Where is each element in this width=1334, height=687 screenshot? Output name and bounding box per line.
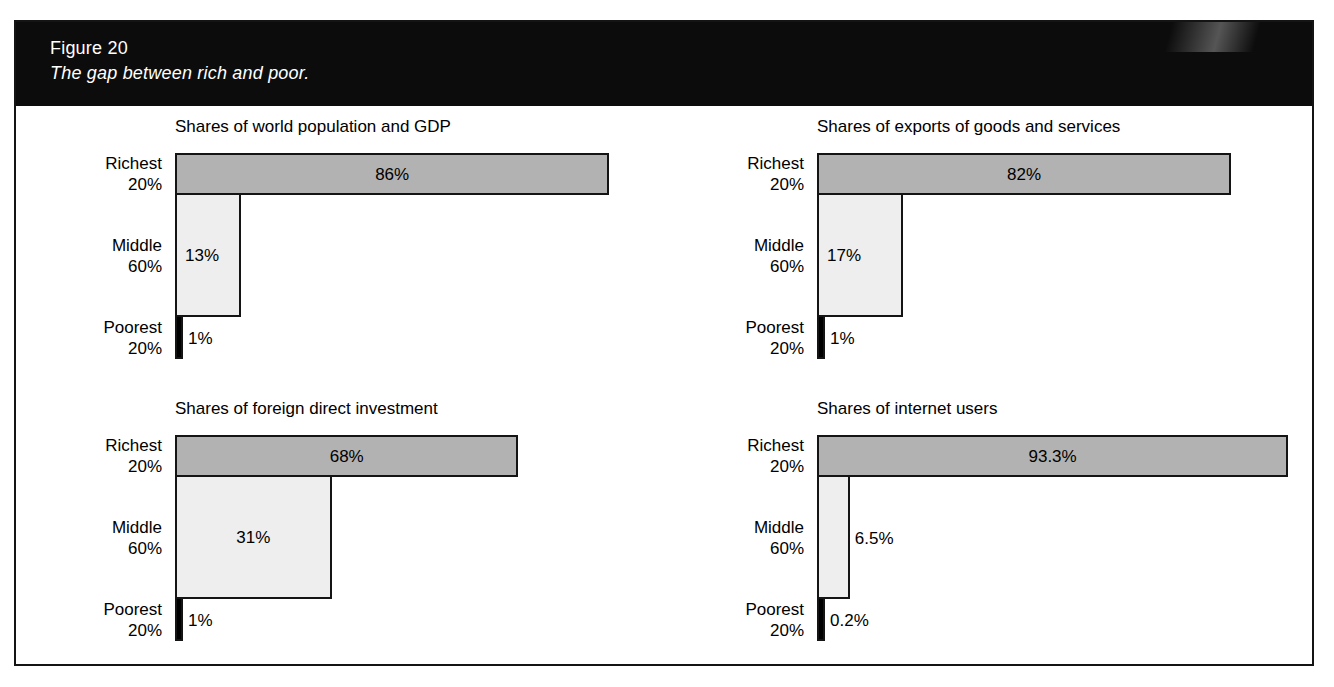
bar-poorest[interactable]	[175, 599, 183, 641]
category-label-line: Poorest	[664, 599, 804, 620]
bar-slot-richest: 86%	[175, 153, 609, 195]
category-label-line: 60%	[664, 256, 804, 277]
bar-middle[interactable]: 17%	[817, 195, 903, 317]
bar-value-label-richest: 68%	[177, 448, 516, 465]
bar-value-label-richest: 86%	[177, 166, 607, 183]
bar-slot-middle: 17%	[817, 195, 903, 317]
bar-slot-richest: 93.3%	[817, 435, 1288, 477]
bar-slot-richest: 82%	[817, 153, 1231, 195]
category-label-middle: Middle60%	[664, 235, 804, 277]
category-label-line: Poorest	[664, 317, 804, 338]
bar-slot-middle: 6.5%	[817, 477, 850, 599]
bar-slot-poorest: 0.2%	[817, 599, 825, 641]
chart-title: Shares of world population and GDP	[175, 116, 451, 138]
bar-slot-poorest: 1%	[817, 317, 825, 359]
chart-title: Shares of foreign direct investment	[175, 398, 438, 420]
category-label-line: 60%	[664, 538, 804, 559]
bar-middle[interactable]	[817, 477, 850, 599]
chart-title: Shares of exports of goods and services	[817, 116, 1120, 138]
chart-panel-internet-users: Shares of internet users Richest20%93.3%…	[664, 398, 1294, 670]
category-label-line: Richest	[664, 153, 804, 174]
category-label-line: 20%	[664, 174, 804, 195]
bar-middle[interactable]: 13%	[175, 195, 241, 317]
bar-value-label-middle: 13%	[185, 247, 219, 264]
category-label-middle: Middle60%	[664, 517, 804, 559]
chart-panel-exports-goods-services: Shares of exports of goods and services …	[664, 116, 1294, 388]
chart-title: Shares of internet users	[817, 398, 997, 420]
category-label-richest: Richest20%	[22, 153, 162, 195]
category-label-line: Richest	[22, 435, 162, 456]
bar-poorest[interactable]	[175, 317, 183, 359]
category-label-line: 60%	[22, 256, 162, 277]
figure-number: Figure 20	[50, 36, 1312, 61]
bar-value-label-poorest: 1%	[188, 330, 213, 347]
bar-slot-middle: 31%	[175, 477, 332, 599]
figure-frame: Figure 20 The gap between rich and poor.…	[14, 20, 1314, 666]
category-label-line: Middle	[664, 235, 804, 256]
bar-value-label-poorest: 1%	[188, 612, 213, 629]
chart-panel-world-population-gdp: Shares of world population and GDP Riche…	[22, 116, 652, 388]
category-label-line: Richest	[22, 153, 162, 174]
figure-subtitle: The gap between rich and poor.	[50, 61, 1312, 86]
bar-value-label-middle: 17%	[827, 247, 861, 264]
charts-area: Shares of world population and GDP Riche…	[16, 106, 1312, 664]
figure-header: Figure 20 The gap between rich and poor.	[16, 22, 1312, 106]
category-label-line: 60%	[22, 538, 162, 559]
bar-middle[interactable]: 31%	[175, 477, 332, 599]
category-label-line: Richest	[664, 435, 804, 456]
bar-poorest[interactable]	[817, 599, 825, 641]
figure-page: Figure 20 The gap between rich and poor.…	[0, 0, 1334, 687]
chart-panel-foreign-direct-investment: Shares of foreign direct investment Rich…	[22, 398, 652, 670]
category-label-line: Poorest	[22, 599, 162, 620]
bar-value-label-poorest: 0.2%	[830, 612, 869, 629]
bar-poorest[interactable]	[817, 317, 825, 359]
category-label-poorest: Poorest20%	[664, 599, 804, 641]
bar-value-label-poorest: 1%	[830, 330, 855, 347]
bar-slot-poorest: 1%	[175, 599, 183, 641]
category-label-middle: Middle60%	[22, 517, 162, 559]
bar-value-label-middle: 31%	[177, 529, 330, 546]
category-label-poorest: Poorest20%	[664, 317, 804, 359]
category-label-line: 20%	[664, 338, 804, 359]
bar-richest[interactable]: 86%	[175, 153, 609, 195]
category-label-poorest: Poorest20%	[22, 317, 162, 359]
bar-richest[interactable]: 93.3%	[817, 435, 1288, 477]
category-label-richest: Richest20%	[22, 435, 162, 477]
bar-value-label-middle: 6.5%	[855, 530, 894, 547]
bar-richest[interactable]: 68%	[175, 435, 518, 477]
category-label-line: Middle	[22, 235, 162, 256]
category-label-line: 20%	[664, 456, 804, 477]
category-label-line: 20%	[22, 174, 162, 195]
category-label-poorest: Poorest20%	[22, 599, 162, 641]
category-label-line: 20%	[22, 456, 162, 477]
category-label-middle: Middle60%	[22, 235, 162, 277]
category-label-line: 20%	[22, 620, 162, 641]
bar-value-label-richest: 82%	[819, 166, 1229, 183]
category-label-line: Middle	[664, 517, 804, 538]
bar-richest[interactable]: 82%	[817, 153, 1231, 195]
category-label-line: 20%	[22, 338, 162, 359]
category-label-richest: Richest20%	[664, 435, 804, 477]
bar-slot-poorest: 1%	[175, 317, 183, 359]
category-label-richest: Richest20%	[664, 153, 804, 195]
bar-slot-middle: 13%	[175, 195, 241, 317]
category-label-line: Middle	[22, 517, 162, 538]
category-label-line: Poorest	[22, 317, 162, 338]
bar-value-label-richest: 93.3%	[819, 448, 1286, 465]
bar-slot-richest: 68%	[175, 435, 518, 477]
category-label-line: 20%	[664, 620, 804, 641]
